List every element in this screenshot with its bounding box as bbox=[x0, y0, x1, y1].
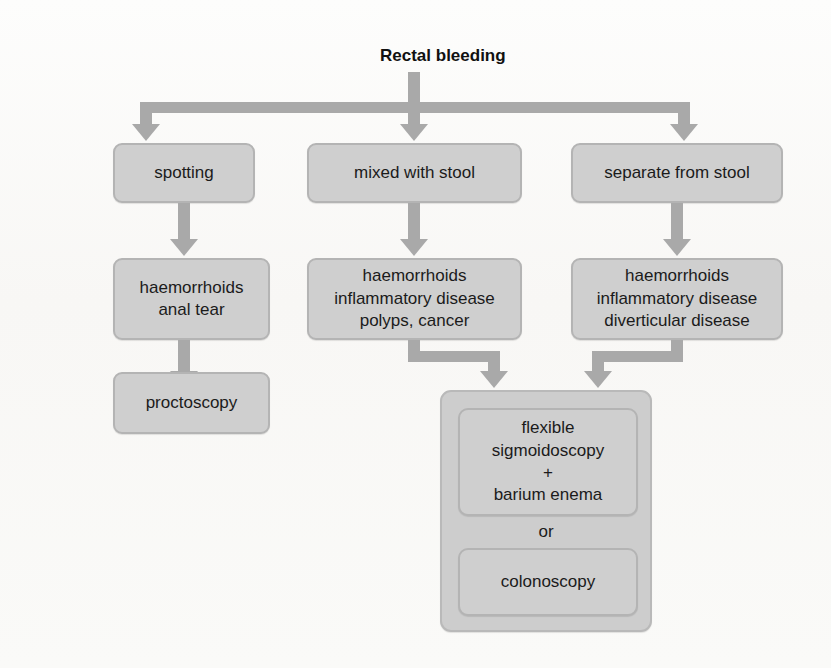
connector-merge-middle-horizontal bbox=[408, 351, 500, 362]
connector-drop-middle bbox=[408, 102, 420, 126]
arrowhead-to-causes-right bbox=[663, 239, 691, 256]
node-colonoscopy-label: colonoscopy bbox=[501, 571, 596, 593]
arrowhead-merge-from-middle bbox=[480, 371, 508, 388]
node-flexible-sigmoidoscopy-barium-enema[interactable]: flexible sigmoidoscopy + barium enema bbox=[458, 408, 638, 516]
node-mixed-with-stool-label: mixed with stool bbox=[354, 162, 475, 184]
node-proctoscopy[interactable]: proctoscopy bbox=[113, 372, 270, 434]
node-investigation-group[interactable]: flexible sigmoidoscopy + barium enema or… bbox=[440, 390, 652, 632]
arrowhead-to-causes-middle bbox=[400, 239, 428, 256]
investigation-group-or-label: or bbox=[442, 522, 650, 542]
flowchart-title: Rectal bleeding bbox=[380, 46, 506, 66]
node-causes-middle[interactable]: haemorrhoids inflammatory disease polyps… bbox=[307, 258, 522, 340]
connector-drop-right bbox=[678, 102, 690, 126]
node-mixed-with-stool[interactable]: mixed with stool bbox=[307, 143, 522, 203]
arrowhead-to-separate-from-stool bbox=[670, 124, 698, 141]
connector-merge-middle-drop bbox=[488, 351, 500, 373]
node-causes-right[interactable]: haemorrhoids inflammatory disease divert… bbox=[571, 258, 783, 340]
node-separate-from-stool[interactable]: separate from stool bbox=[571, 143, 783, 203]
node-flexible-sigmoidoscopy-barium-enema-label: flexible sigmoidoscopy + barium enema bbox=[492, 417, 604, 507]
connector-merge-right-horizontal bbox=[592, 351, 683, 362]
connector-mixed-to-causes bbox=[408, 203, 420, 241]
arrowhead-to-mixed-with-stool bbox=[400, 124, 428, 141]
node-causes-left-label: haemorrhoids anal tear bbox=[140, 277, 244, 322]
node-spotting-label: spotting bbox=[154, 162, 214, 184]
node-spotting[interactable]: spotting bbox=[113, 143, 255, 203]
node-proctoscopy-label: proctoscopy bbox=[146, 392, 238, 414]
connector-root-stem bbox=[408, 72, 420, 106]
connector-merge-right-drop bbox=[592, 351, 604, 373]
arrowhead-to-haemorrhoids-anal-tear bbox=[170, 239, 198, 256]
node-causes-middle-label: haemorrhoids inflammatory disease polyps… bbox=[334, 265, 495, 332]
arrowhead-to-spotting bbox=[132, 124, 160, 141]
node-causes-right-label: haemorrhoids inflammatory disease divert… bbox=[597, 265, 758, 332]
connector-causes-left-to-proctoscopy bbox=[178, 340, 190, 373]
connector-spotting-to-causes bbox=[178, 203, 190, 241]
node-colonoscopy[interactable]: colonoscopy bbox=[458, 548, 638, 616]
connector-separate-to-causes bbox=[671, 203, 683, 241]
connector-drop-left bbox=[140, 102, 152, 126]
node-separate-from-stool-label: separate from stool bbox=[604, 162, 750, 184]
flowchart-canvas: Rectal bleeding spotting mixed with stoo… bbox=[0, 0, 831, 668]
node-causes-left[interactable]: haemorrhoids anal tear bbox=[113, 258, 270, 340]
arrowhead-merge-from-right bbox=[584, 371, 612, 388]
